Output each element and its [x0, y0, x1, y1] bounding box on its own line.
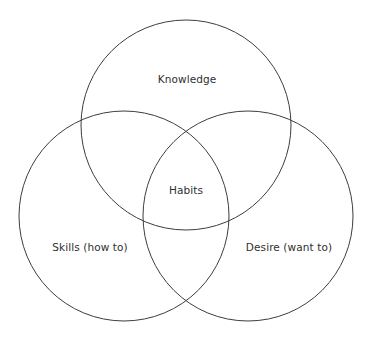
venn-circles — [0, 0, 372, 341]
knowledge-label: Knowledge — [158, 73, 217, 85]
venn-diagram: Knowledge Habits Skills (how to) Desire … — [0, 0, 372, 341]
habits-label: Habits — [169, 184, 203, 196]
skills-circle — [19, 111, 229, 321]
desire-circle — [143, 111, 353, 321]
skills-label: Skills (how to) — [52, 241, 128, 253]
desire-label: Desire (want to) — [246, 241, 332, 253]
knowledge-circle — [81, 20, 291, 230]
